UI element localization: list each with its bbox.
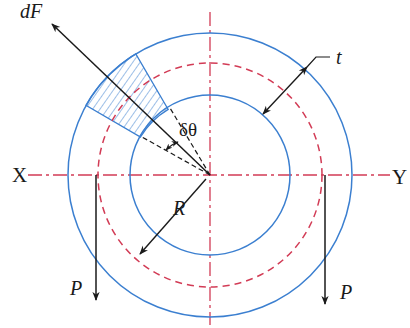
t-dimension-arrow (263, 67, 307, 114)
dtheta-label: δθ (179, 119, 197, 140)
X-label: X (12, 163, 27, 187)
dF-arrow (52, 24, 210, 175)
R-label: R (172, 197, 185, 219)
thin-ring-diagram: dF δθ t R X Y P P (0, 0, 410, 328)
dtheta-arc-arrow (166, 142, 178, 150)
P-left-label: P (69, 277, 82, 299)
Y-label: Y (392, 165, 407, 189)
dF-label: dF (20, 0, 43, 22)
t-label: t (336, 46, 342, 68)
P-right-label: P (339, 281, 352, 303)
t-leader-line (307, 57, 330, 67)
